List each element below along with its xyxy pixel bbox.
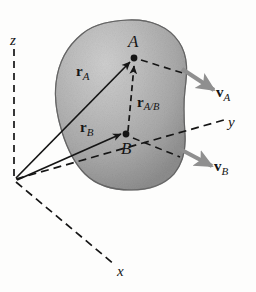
- vector-v-a-arrow: [182, 69, 214, 90]
- vector-label-r-a-subscript: A: [83, 70, 90, 82]
- vector-label-r-a-symbol: r: [76, 63, 83, 79]
- vector-label-r-ab-subscript: A/B: [144, 101, 160, 112]
- vector-label-v-a: vA: [216, 85, 230, 103]
- point-label-a: A: [128, 33, 138, 50]
- axis-label-x: x: [117, 264, 124, 279]
- rigid-body-shape: [55, 20, 186, 190]
- vector-label-r-b: rB: [80, 120, 94, 138]
- vector-label-r-ab: rA/B: [137, 95, 159, 113]
- vector-label-r-b-symbol: r: [80, 119, 87, 135]
- vector-label-v-b: vB: [214, 159, 228, 177]
- vector-label-v-b-subscript: B: [222, 165, 229, 177]
- point-b-dot: [123, 131, 130, 138]
- vector-label-v-a-subscript: A: [224, 91, 231, 103]
- vector-label-v-a-symbol: v: [216, 84, 224, 100]
- axis-label-y: y: [228, 115, 235, 130]
- figure-container: z y x A B rA rB rA/B vA vB: [0, 0, 256, 292]
- axis-label-z: z: [10, 33, 16, 48]
- vector-label-v-b-symbol: v: [214, 158, 222, 174]
- vector-label-r-a: rA: [76, 64, 90, 82]
- point-a-dot: [131, 55, 138, 62]
- point-label-b: B: [121, 140, 131, 157]
- vector-label-r-ab-symbol: r: [137, 94, 144, 110]
- axis-x-line: [16, 182, 115, 265]
- vector-label-r-b-subscript: B: [87, 126, 94, 138]
